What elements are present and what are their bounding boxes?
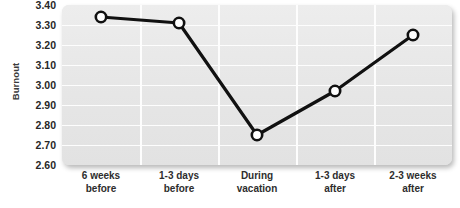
y-tick-label: 3.10 xyxy=(22,60,56,71)
burnout-line xyxy=(101,17,413,135)
x-tick-label: 2-3 weeksafter xyxy=(363,170,460,195)
y-axis-tick-labels: 3.403.303.203.103.002.902.802.702.60 xyxy=(22,5,56,165)
y-tick-label: 3.40 xyxy=(22,0,56,10)
data-point-markers xyxy=(96,12,418,140)
y-tick-label: 3.20 xyxy=(22,40,56,51)
x-axis-tick-labels: 6 weeksbefore1-3 daysbeforeDuringvacatio… xyxy=(62,170,452,206)
x-tick-label-line: after xyxy=(363,183,460,196)
y-tick-label: 2.60 xyxy=(22,160,56,171)
data-point-marker xyxy=(330,86,340,96)
y-tick-label: 2.80 xyxy=(22,120,56,131)
y-tick-label: 3.30 xyxy=(22,20,56,31)
plot-area xyxy=(62,5,452,165)
x-tick-label-line: 2-3 weeks xyxy=(363,170,460,183)
data-point-marker xyxy=(174,18,184,28)
y-tick-label: 2.90 xyxy=(22,100,56,111)
burnout-line-chart: Burnout 3.403.303.203.103.002.902.802.70… xyxy=(0,0,460,208)
data-point-marker xyxy=(96,12,106,22)
y-tick-label: 2.70 xyxy=(22,140,56,151)
y-axis-title: Burnout xyxy=(10,46,21,118)
y-tick-label: 3.00 xyxy=(22,80,56,91)
data-series-layer xyxy=(62,5,452,165)
data-point-marker xyxy=(252,130,262,140)
data-point-marker xyxy=(408,30,418,40)
